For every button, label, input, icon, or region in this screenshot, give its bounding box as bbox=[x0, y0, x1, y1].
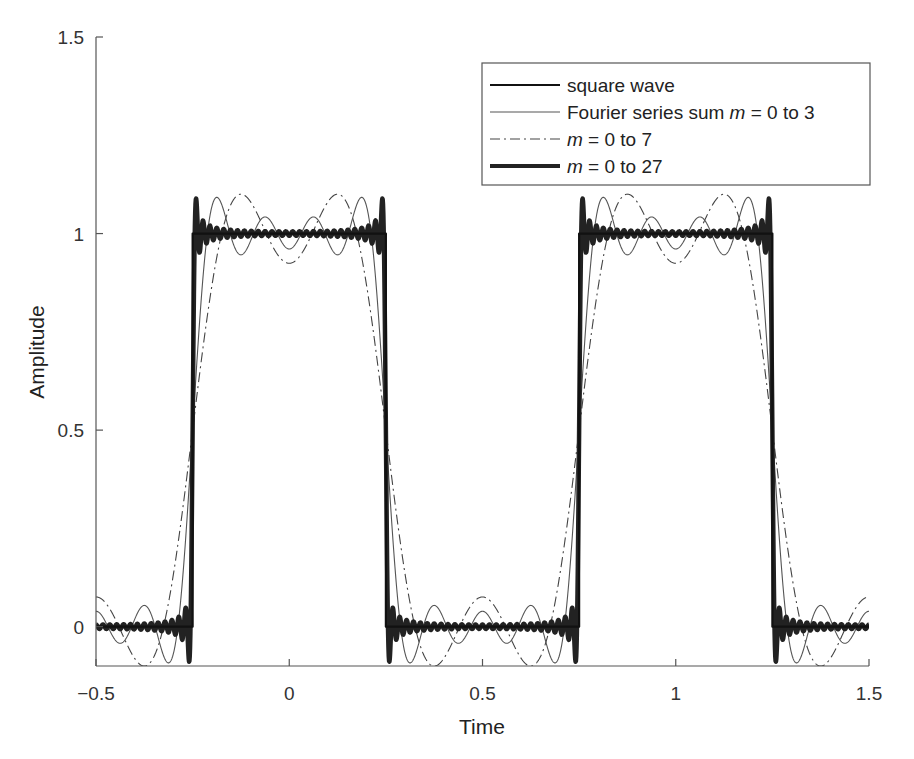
series-line-3 bbox=[96, 199, 869, 662]
legend-label-1: Fourier series sum m = 0 to 3 bbox=[567, 102, 815, 123]
x-tick-label: 0.5 bbox=[469, 683, 495, 704]
legend-label-2: m = 0 to 7 bbox=[567, 129, 652, 150]
series-line-1 bbox=[96, 197, 869, 663]
y-axis-label: Amplitude bbox=[25, 305, 48, 398]
x-tick-label: 1 bbox=[670, 683, 681, 704]
x-tick-label: 0 bbox=[284, 683, 295, 704]
y-tick-label: 1 bbox=[73, 224, 84, 245]
y-tick-label: 0.5 bbox=[58, 420, 84, 441]
x-axis-label: Time bbox=[459, 715, 505, 738]
plot-curves bbox=[96, 194, 869, 666]
y-tick-label: 0 bbox=[73, 617, 84, 638]
y-tick-label: 1.5 bbox=[58, 27, 84, 48]
legend-label-3: m = 0 to 27 bbox=[567, 156, 663, 177]
legend-label-0: square wave bbox=[567, 75, 675, 96]
fourier-square-wave-chart: −0.500.511.500.511.5 square waveFourier … bbox=[0, 0, 914, 759]
x-tick-label: −0.5 bbox=[77, 683, 115, 704]
series-line-0 bbox=[96, 234, 869, 627]
series-line-2 bbox=[96, 194, 869, 666]
legend: square waveFourier series sum m = 0 to 3… bbox=[482, 63, 870, 185]
x-tick-label: 1.5 bbox=[856, 683, 882, 704]
